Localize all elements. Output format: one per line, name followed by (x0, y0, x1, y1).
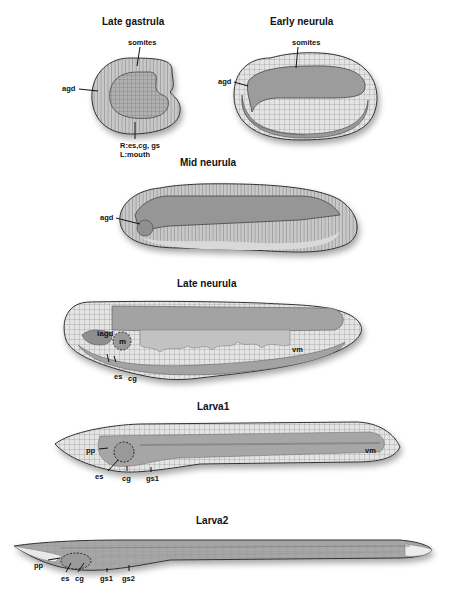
label-es: es (95, 472, 103, 481)
label-mouth: L:mouth (120, 150, 150, 159)
mid-neurula-embryo (120, 184, 357, 252)
late-neurula-title: Late neurula (177, 278, 236, 289)
larva2-title: Larva2 (196, 515, 228, 526)
late-neurula-embryo (64, 301, 361, 379)
label-gs2: gs2 (122, 574, 135, 583)
label-pp: pp (34, 561, 43, 570)
label-m: m (119, 337, 126, 346)
label-somites: somites (128, 38, 156, 47)
label-es: es (114, 372, 122, 381)
label-es-cg-gs: R:es,cg, gs (120, 141, 160, 150)
label-pp: pp (86, 446, 95, 455)
label-vm: vm (292, 345, 303, 354)
label-agd: agd (100, 213, 113, 222)
late-gastrula-embryo (92, 58, 180, 134)
larva1-title: Larva1 (197, 401, 229, 412)
label-lagd: lagd (97, 329, 113, 338)
label-cg: cg (122, 474, 131, 483)
early-neurula-title: Early neurula (270, 16, 333, 27)
late-gastrula-title: Late gastrula (102, 16, 164, 27)
label-es: es (61, 574, 69, 583)
label-agd: agd (62, 84, 75, 93)
label-gs1: gs1 (146, 474, 159, 483)
label-gs1: gs1 (100, 574, 113, 583)
label-cg: cg (75, 574, 84, 583)
label-somites: somites (292, 38, 320, 47)
larva1-body (55, 422, 400, 472)
label-vm: vm (365, 446, 376, 455)
label-cg: cg (128, 374, 137, 383)
early-neurula-embryo (234, 53, 377, 140)
label-agd: agd (218, 77, 231, 86)
mid-neurula-title: Mid neurula (180, 157, 236, 168)
larva2-body (14, 540, 432, 570)
